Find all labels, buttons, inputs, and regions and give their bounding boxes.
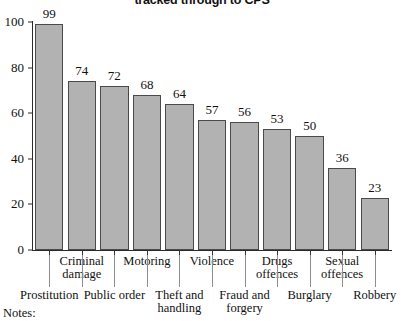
x-axis-category-label: Fraud and forgery bbox=[213, 289, 276, 315]
y-axis-tick-label: 0 bbox=[18, 242, 25, 258]
bar[interactable] bbox=[295, 136, 323, 250]
bar-item[interactable]: 68 bbox=[133, 22, 161, 250]
x-axis-category-label: Robbery bbox=[343, 289, 404, 302]
bar-value-label: 68 bbox=[140, 77, 153, 93]
x-axis-leader-line bbox=[82, 255, 83, 287]
bar[interactable] bbox=[133, 95, 161, 250]
bar[interactable] bbox=[361, 198, 389, 250]
bar[interactable] bbox=[100, 86, 128, 250]
bar-value-label: 23 bbox=[368, 180, 381, 196]
x-axis-leader-line bbox=[147, 255, 148, 287]
y-axis-tick-label: 40 bbox=[11, 151, 24, 167]
bar-item[interactable]: 23 bbox=[361, 22, 389, 250]
bar-value-label: 64 bbox=[173, 86, 186, 102]
bar-value-label: 53 bbox=[271, 111, 284, 127]
bar-value-label: 72 bbox=[108, 68, 121, 84]
notes-label: Notes: bbox=[3, 306, 36, 321]
x-axis-leader-line bbox=[212, 255, 213, 287]
bar-item[interactable]: 53 bbox=[263, 22, 291, 250]
bar-chart: tracked through to CPS 020406080100 9974… bbox=[0, 0, 404, 321]
bar[interactable] bbox=[263, 129, 291, 250]
bar[interactable] bbox=[35, 24, 63, 250]
x-axis-category-label: Theft and handling bbox=[148, 289, 211, 315]
bar-item[interactable]: 99 bbox=[35, 22, 63, 250]
bar-series: 9974726864575653503623 bbox=[33, 22, 391, 250]
bar-value-label: 56 bbox=[238, 104, 251, 120]
chart-title: tracked through to CPS bbox=[0, 0, 404, 7]
x-axis-leader-line bbox=[277, 255, 278, 287]
bar-item[interactable]: 74 bbox=[68, 22, 96, 250]
bar-value-label: 74 bbox=[75, 63, 88, 79]
bar[interactable] bbox=[230, 122, 258, 250]
y-axis-tick-label: 60 bbox=[11, 105, 24, 121]
bar[interactable] bbox=[328, 168, 356, 250]
x-axis-category-label: Burglary bbox=[278, 289, 341, 302]
y-axis-tick-label: 80 bbox=[11, 60, 24, 76]
bar-value-label: 36 bbox=[336, 150, 349, 166]
plot-area: 020406080100 9974726864575653503623 bbox=[33, 22, 391, 250]
bar-item[interactable]: 57 bbox=[198, 22, 226, 250]
bar-value-label: 50 bbox=[303, 118, 316, 134]
y-axis-tick-label: 100 bbox=[5, 14, 25, 30]
x-axis-category-label: Public order bbox=[83, 289, 146, 302]
bar[interactable] bbox=[198, 120, 226, 250]
bar-value-label: 99 bbox=[43, 6, 56, 22]
bar-item[interactable]: 56 bbox=[230, 22, 258, 250]
bar-item[interactable]: 72 bbox=[100, 22, 128, 250]
bar[interactable] bbox=[165, 104, 193, 250]
bar-item[interactable]: 36 bbox=[328, 22, 356, 250]
x-axis-leader-line bbox=[375, 255, 376, 287]
y-axis-tick-label: 20 bbox=[11, 196, 24, 212]
bar-item[interactable]: 64 bbox=[165, 22, 193, 250]
bar-item[interactable]: 50 bbox=[295, 22, 323, 250]
x-axis-leader-line bbox=[342, 255, 343, 287]
x-axis-category-label: Prostitution bbox=[18, 289, 81, 302]
bar-value-label: 57 bbox=[205, 102, 218, 118]
bar[interactable] bbox=[68, 81, 96, 250]
